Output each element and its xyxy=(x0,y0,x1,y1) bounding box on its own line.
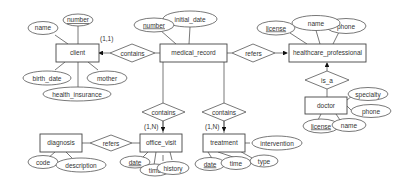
attr-client-mother[interactable]: mother xyxy=(87,71,127,85)
entity-doctor-label: doctor xyxy=(317,102,336,109)
attr-label: health_insurance xyxy=(52,91,102,99)
cardinality-treatment: (1,N) xyxy=(205,123,219,131)
entity-medical-record-label: medical_record xyxy=(171,49,216,57)
attr-treatment-type[interactable]: type xyxy=(250,155,278,167)
entity-doctor[interactable]: doctor xyxy=(305,97,347,114)
cardinality-client: (1,1) xyxy=(100,35,113,43)
attr-doctor-name[interactable]: name xyxy=(332,119,366,132)
attr-doctor-specialty[interactable]: specialty xyxy=(348,88,388,101)
attr-label: mother xyxy=(97,75,118,82)
attr-client-birth-date[interactable]: birth_date xyxy=(23,71,71,85)
entity-medical-record[interactable]: medical_record xyxy=(160,44,227,62)
relationship-label: is_a xyxy=(321,77,333,85)
attr-label: description xyxy=(65,162,97,170)
attr-label: license xyxy=(266,25,287,32)
attr-label: type xyxy=(258,158,271,166)
entity-treatment-label: treatment xyxy=(210,139,238,146)
cardinality-office-visit: (1,N) xyxy=(144,123,158,131)
attr-label: number xyxy=(67,16,90,23)
relationship-contains-client[interactable]: contains xyxy=(110,44,155,62)
attr-label: license xyxy=(311,123,332,130)
relationship-label: contains xyxy=(151,109,176,116)
attr-doctor-phone[interactable]: phone xyxy=(351,105,391,118)
hp-attributes: phone name license xyxy=(257,16,366,36)
attr-label: specialty xyxy=(355,91,381,99)
relationship-refers-diagnosis[interactable]: refers xyxy=(90,135,132,151)
attr-label: phone xyxy=(362,108,380,116)
attr-label: name xyxy=(341,122,358,129)
attr-label: date xyxy=(204,161,217,168)
attr-label: birth_date xyxy=(33,75,62,83)
attr-treatment-date[interactable]: date xyxy=(195,158,225,171)
relationship-label: refers xyxy=(103,140,120,147)
relationship-label: refers xyxy=(245,50,262,57)
attr-label: name xyxy=(308,20,325,27)
attr-diagnosis-code[interactable]: code xyxy=(28,156,58,169)
attr-label: date xyxy=(129,159,142,166)
attr-label: time xyxy=(230,160,243,167)
attr-treatment-time[interactable]: time xyxy=(221,157,251,170)
attr-client-number[interactable]: number xyxy=(63,14,93,26)
entity-client[interactable]: client xyxy=(56,44,99,62)
relationship-is-a[interactable]: is_a xyxy=(305,71,349,89)
attr-label: history xyxy=(163,165,183,173)
medical-record-attributes: initial_date number xyxy=(134,11,217,32)
attr-label: number xyxy=(143,22,166,29)
office-visit-attributes: date time history xyxy=(120,156,189,176)
entity-healthcare-professional-label: healthcare_professional xyxy=(293,49,363,57)
relationship-label: contains xyxy=(120,50,145,57)
relationship-contains-visit[interactable]: contains xyxy=(142,103,185,121)
attr-label: code xyxy=(36,159,50,166)
attr-diagnosis-description[interactable]: description xyxy=(56,158,106,172)
entity-diagnosis[interactable]: diagnosis xyxy=(40,134,82,152)
attr-label: name xyxy=(35,24,52,31)
entity-diagnosis-label: diagnosis xyxy=(47,139,75,147)
attr-mr-number[interactable]: number xyxy=(134,18,174,32)
entity-healthcare-professional[interactable]: healthcare_professional xyxy=(289,44,366,62)
relationship-label: contains xyxy=(212,109,237,116)
er-diagram: client medical_record healthcare_profess… xyxy=(0,0,412,188)
attr-label: initial_date xyxy=(174,16,205,24)
diagnosis-attributes: code description xyxy=(28,156,106,173)
entity-client-label: client xyxy=(70,49,85,56)
attr-hp-name[interactable]: name xyxy=(292,16,340,31)
attr-client-name[interactable]: name xyxy=(28,22,58,35)
attr-label: intervention xyxy=(260,140,294,147)
entity-treatment[interactable]: treatment xyxy=(203,134,245,152)
entity-office-visit[interactable]: office_visit xyxy=(140,134,182,152)
entity-office-visit-label: office_visit xyxy=(146,139,176,147)
relationship-contains-treatment[interactable]: contains xyxy=(202,103,246,121)
attr-treatment-intervention[interactable]: intervention xyxy=(252,136,302,150)
attr-hp-license[interactable]: license xyxy=(257,21,295,35)
relationship-refers-hp[interactable]: refers xyxy=(232,44,275,62)
attr-visit-history[interactable]: history xyxy=(157,162,189,175)
attr-client-health-insurance[interactable]: health_insurance xyxy=(43,87,111,101)
